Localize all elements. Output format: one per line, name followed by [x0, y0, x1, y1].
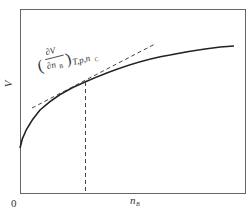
- origin-label: 0: [11, 197, 17, 209]
- y-axis-label: V: [2, 79, 14, 87]
- svg-text:T,p,n: T,p,n: [71, 53, 91, 67]
- svg-text:∂n: ∂n: [46, 59, 58, 71]
- svg-text:∂V: ∂V: [44, 45, 58, 57]
- plot-frame: [21, 10, 246, 194]
- partial-derivative-annotation: ( ∂V ∂n B ) T,p,n C: [34, 35, 100, 76]
- diagram-canvas: V 0 n B ( ∂V ∂n B ) T,p,n C: [0, 0, 251, 217]
- svg-text:B: B: [136, 201, 140, 207]
- svg-text:B: B: [59, 63, 64, 70]
- svg-text:C: C: [94, 56, 99, 63]
- x-axis-label: n B: [130, 194, 140, 207]
- svg-text:(: (: [36, 57, 46, 76]
